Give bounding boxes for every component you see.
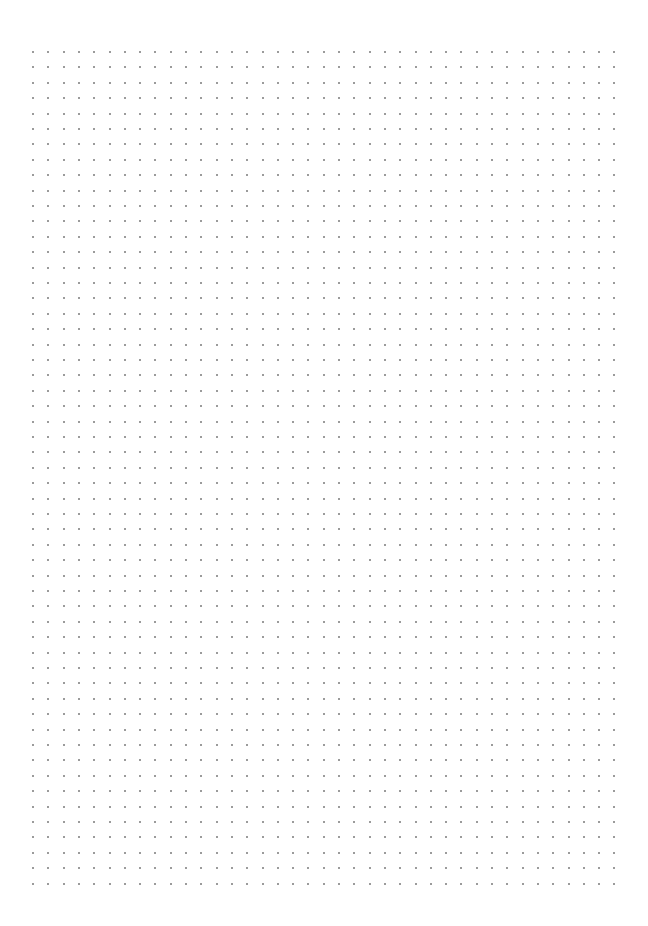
grid-dot	[568, 544, 570, 546]
grid-dot	[506, 575, 508, 577]
grid-dot	[170, 513, 172, 515]
grid-dot	[353, 744, 355, 746]
grid-dot	[200, 775, 202, 777]
grid-dot	[568, 605, 570, 607]
grid-dot	[430, 374, 432, 376]
grid-dot	[277, 328, 279, 330]
grid-dot	[216, 698, 218, 700]
grid-dot	[93, 344, 95, 346]
grid-dot	[568, 251, 570, 253]
grid-dot	[216, 97, 218, 99]
grid-dot	[170, 190, 172, 192]
grid-dot	[476, 359, 478, 361]
grid-dot	[491, 97, 493, 99]
grid-dot	[491, 251, 493, 253]
grid-dot	[384, 359, 386, 361]
grid-dot	[460, 867, 462, 869]
grid-dot	[613, 405, 615, 407]
grid-dot	[369, 636, 371, 638]
grid-dot	[185, 313, 187, 315]
grid-dot	[613, 421, 615, 423]
grid-dot	[231, 328, 233, 330]
grid-dot	[338, 821, 340, 823]
grid-dot	[338, 344, 340, 346]
grid-dot	[139, 775, 141, 777]
grid-dot	[139, 544, 141, 546]
grid-dot	[568, 113, 570, 115]
grid-dot	[583, 467, 585, 469]
grid-dot	[246, 405, 248, 407]
grid-dot	[460, 97, 462, 99]
grid-dot	[430, 328, 432, 330]
grid-dot	[32, 775, 34, 777]
grid-dot	[460, 359, 462, 361]
grid-dot	[200, 682, 202, 684]
grid-dot	[185, 867, 187, 869]
grid-dot	[522, 559, 524, 561]
grid-dot	[476, 759, 478, 761]
grid-dot	[277, 97, 279, 99]
grid-dot	[460, 621, 462, 623]
grid-dot	[170, 51, 172, 53]
grid-dot	[170, 575, 172, 577]
grid-dot	[78, 836, 80, 838]
grid-dot	[460, 482, 462, 484]
grid-dot	[246, 344, 248, 346]
grid-dot	[338, 313, 340, 315]
grid-dot	[307, 267, 309, 269]
grid-dot	[323, 451, 325, 453]
grid-dot	[338, 328, 340, 330]
grid-dot	[124, 836, 126, 838]
grid-dot	[231, 97, 233, 99]
grid-dot	[522, 636, 524, 638]
grid-dot	[109, 667, 111, 669]
grid-dot	[170, 775, 172, 777]
grid-dot	[552, 821, 554, 823]
grid-dot	[292, 605, 294, 607]
grid-dot	[399, 867, 401, 869]
grid-dot	[262, 744, 264, 746]
grid-dot	[216, 313, 218, 315]
grid-dot	[170, 698, 172, 700]
grid-dot	[460, 605, 462, 607]
grid-dot	[200, 636, 202, 638]
grid-dot	[338, 498, 340, 500]
grid-dot	[292, 405, 294, 407]
grid-dot	[262, 159, 264, 161]
grid-dot	[292, 713, 294, 715]
grid-dot	[399, 220, 401, 222]
grid-dot	[399, 759, 401, 761]
grid-dot	[552, 867, 554, 869]
grid-dot	[491, 82, 493, 84]
grid-dot	[537, 867, 539, 869]
grid-dot	[307, 482, 309, 484]
grid-dot	[430, 713, 432, 715]
grid-dot	[369, 790, 371, 792]
grid-dot	[460, 405, 462, 407]
grid-dot	[246, 159, 248, 161]
grid-dot	[154, 806, 156, 808]
grid-dot	[154, 744, 156, 746]
grid-dot	[384, 729, 386, 731]
grid-dot	[476, 883, 478, 885]
grid-dot	[353, 390, 355, 392]
grid-dot	[537, 852, 539, 854]
grid-dot	[415, 405, 417, 407]
grid-dot	[369, 421, 371, 423]
grid-dot	[384, 883, 386, 885]
grid-dot	[154, 328, 156, 330]
grid-dot	[445, 713, 447, 715]
grid-dot	[568, 205, 570, 207]
grid-dot	[47, 575, 49, 577]
grid-dot	[63, 790, 65, 792]
grid-dot	[384, 82, 386, 84]
grid-dot	[430, 636, 432, 638]
grid-dot	[246, 236, 248, 238]
grid-dot	[47, 621, 49, 623]
grid-dot	[430, 759, 432, 761]
grid-dot	[460, 883, 462, 885]
grid-dot	[216, 605, 218, 607]
grid-dot	[231, 236, 233, 238]
grid-dot	[139, 744, 141, 746]
grid-dot	[552, 97, 554, 99]
